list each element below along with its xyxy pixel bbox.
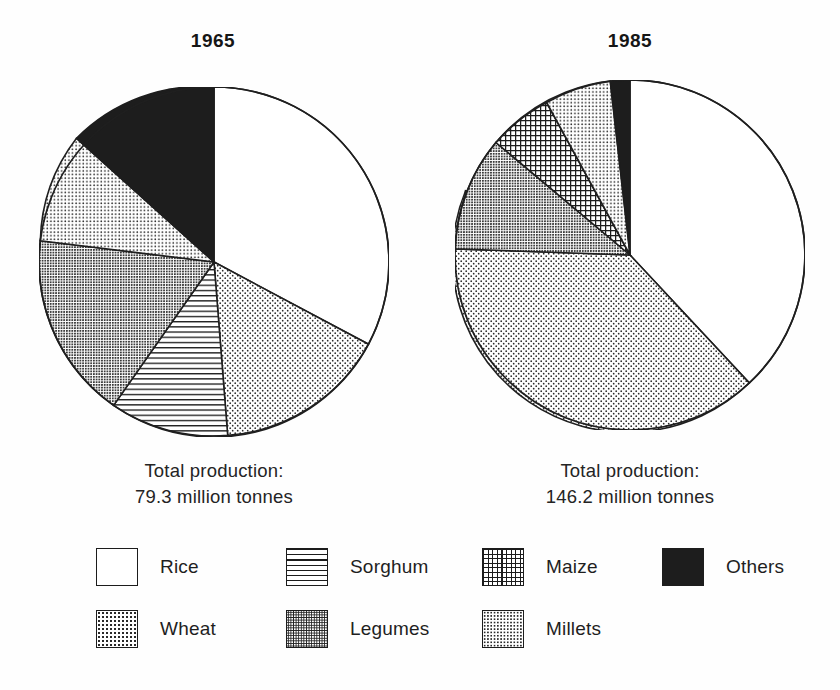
legend-item-others[interactable]: Others [662, 548, 784, 586]
legend-item-sorghum[interactable]: Sorghum [286, 548, 429, 586]
legend-label-rice: Rice [160, 556, 199, 578]
legend: Rice Wheat Sorghum Legumes Maize Millets… [96, 548, 796, 653]
pie-1965-svg [39, 87, 389, 437]
legend-swatch-sorghum [286, 548, 328, 586]
chart-title-right: 1985 [530, 30, 730, 52]
legend-item-legumes[interactable]: Legumes [286, 610, 430, 648]
legend-swatch-maize [482, 548, 524, 586]
legend-swatch-legumes [286, 610, 328, 648]
legend-item-wheat[interactable]: Wheat [96, 610, 216, 648]
legend-item-rice[interactable]: Rice [96, 548, 199, 586]
caption-1985-line2: 146.2 million tonnes [480, 484, 780, 510]
figure-canvas: 1965 1985 [0, 0, 840, 690]
pie-1985-svg [455, 80, 805, 430]
legend-item-millets[interactable]: Millets [482, 610, 601, 648]
legend-label-legumes: Legumes [350, 618, 430, 640]
chart-title-left: 1965 [113, 30, 313, 52]
caption-1965: Total production: 79.3 million tonnes [64, 458, 364, 510]
caption-1985-line1: Total production: [480, 458, 780, 484]
legend-swatch-others [662, 548, 704, 586]
caption-1965-line2: 79.3 million tonnes [64, 484, 364, 510]
legend-label-sorghum: Sorghum [350, 556, 429, 578]
legend-swatch-rice [96, 548, 138, 586]
legend-label-millets: Millets [546, 618, 601, 640]
legend-item-maize[interactable]: Maize [482, 548, 598, 586]
pie-chart-1985 [455, 80, 805, 430]
legend-swatch-wheat [96, 610, 138, 648]
caption-1965-line1: Total production: [64, 458, 364, 484]
pie-chart-1965 [39, 87, 389, 437]
legend-label-maize: Maize [546, 556, 598, 578]
legend-label-wheat: Wheat [160, 618, 216, 640]
legend-label-others: Others [726, 556, 784, 578]
legend-swatch-millets [482, 610, 524, 648]
caption-1985: Total production: 146.2 million tonnes [480, 458, 780, 510]
